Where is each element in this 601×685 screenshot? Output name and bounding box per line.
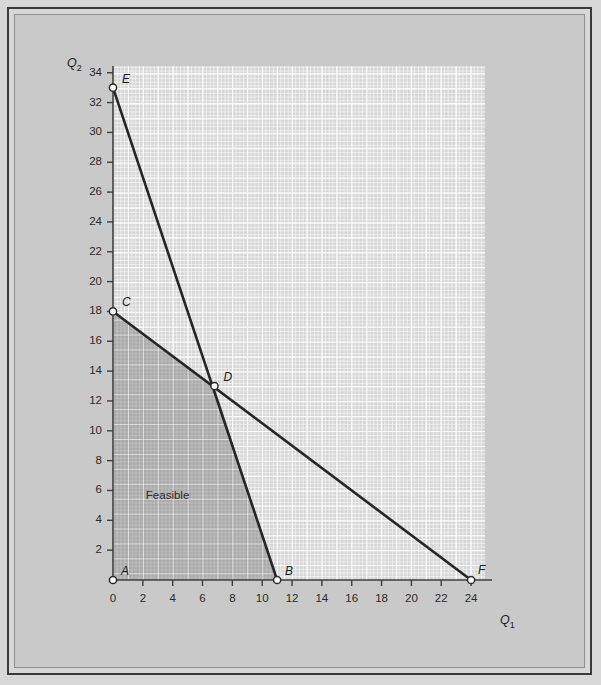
x-tick-label: 12 xyxy=(277,592,307,604)
y-tick-label: 24 xyxy=(72,215,102,227)
y-tick-label: 20 xyxy=(72,275,102,287)
point-label-f: F xyxy=(478,563,485,577)
axis-ticks xyxy=(107,73,471,586)
y-tick-label: 16 xyxy=(72,334,102,346)
x-tick-label: 4 xyxy=(158,592,188,604)
x-tick-label: 18 xyxy=(367,592,397,604)
x-tick-label: 2 xyxy=(128,592,158,604)
x-axis-title: Q1 xyxy=(500,613,515,630)
point-label-e: E xyxy=(122,72,130,86)
x-tick-label: 0 xyxy=(98,592,128,604)
point-label-d: D xyxy=(223,370,232,384)
axis-lines xyxy=(113,66,492,580)
y-tick-label: 2 xyxy=(72,543,102,555)
y-tick-label: 18 xyxy=(72,304,102,316)
y-tick-label: 8 xyxy=(72,454,102,466)
x-tick-label: 8 xyxy=(217,592,247,604)
point-label-c: C xyxy=(122,295,131,309)
x-tick-label: 14 xyxy=(307,592,337,604)
x-tick-label: 20 xyxy=(396,592,426,604)
chart-figure: 246810121416182022242628303234 024681012… xyxy=(0,0,601,685)
y-tick-label: 12 xyxy=(72,394,102,406)
figure-page: 246810121416182022242628303234 024681012… xyxy=(0,0,601,685)
y-tick-label: 22 xyxy=(72,245,102,257)
y-tick-label: 14 xyxy=(72,364,102,376)
vertex-markers xyxy=(109,84,474,584)
x-tick-label: 16 xyxy=(337,592,367,604)
y-tick-label: 30 xyxy=(72,125,102,137)
y-tick-label: 26 xyxy=(72,185,102,197)
feasible-annotation: Feasible xyxy=(146,489,189,501)
y-tick-label: 32 xyxy=(72,96,102,108)
y-tick-label: 28 xyxy=(72,155,102,167)
constraint-lines xyxy=(113,88,471,580)
y-axis-title: Q2 xyxy=(67,56,82,73)
x-tick-label: 10 xyxy=(247,592,277,604)
y-tick-label: 10 xyxy=(72,424,102,436)
x-tick-label: 6 xyxy=(188,592,218,604)
y-tick-label: 6 xyxy=(72,483,102,495)
point-label-a: A xyxy=(121,564,129,578)
y-tick-label: 4 xyxy=(72,513,102,525)
x-tick-label: 22 xyxy=(426,592,456,604)
point-label-b: B xyxy=(285,564,293,578)
x-tick-label: 24 xyxy=(456,592,486,604)
